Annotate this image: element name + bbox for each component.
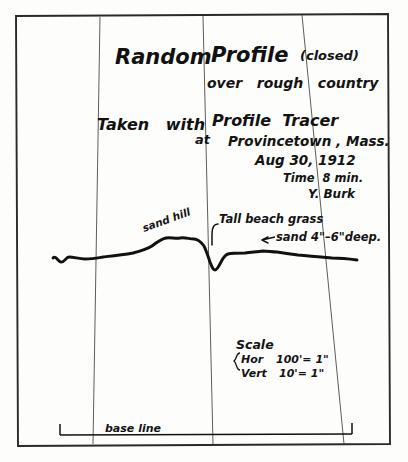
sand-depth-label: sand 4"–6"deep. xyxy=(276,230,381,244)
title-subtitle: over rough country xyxy=(207,75,379,91)
date-text: Aug 30, 1912 xyxy=(254,152,356,168)
title-random: Random xyxy=(115,45,212,69)
instrument-name: Profile Tracer xyxy=(212,111,339,130)
tall-beach-grass-label: Tall beach grass xyxy=(219,212,323,226)
scale-heading: Scale xyxy=(236,337,274,352)
title-profile: Profile xyxy=(211,43,289,67)
base-line-rule xyxy=(60,434,352,435)
scale-vertical-label: Vert xyxy=(241,367,268,380)
signature: Y. Burk xyxy=(308,187,356,201)
base-line-label: base line xyxy=(105,422,162,435)
title-closed: (closed) xyxy=(300,48,359,63)
profile-sheet-svg: Random Profile (closed) over rough count… xyxy=(0,0,408,462)
location-text: Provincetown , Mass. xyxy=(228,133,390,149)
scale-horizontal-value: 100'= 1" xyxy=(276,353,329,366)
duration-text: Time 8 min. xyxy=(283,171,363,185)
taken-with-label: Taken with xyxy=(97,115,205,134)
scale-vertical-value: 10'= 1" xyxy=(279,367,324,380)
scale-horizontal-label: Hor xyxy=(241,353,264,366)
at-label: at xyxy=(195,132,211,147)
field-sheet-page: Random Profile (closed) over rough count… xyxy=(0,0,408,462)
